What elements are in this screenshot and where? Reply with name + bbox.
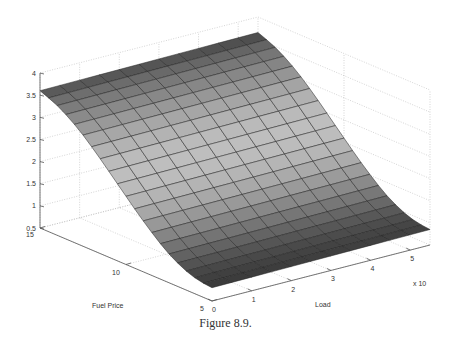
- x-axis-title: Load: [315, 301, 331, 308]
- x-tick-label: 2: [291, 286, 295, 293]
- surface-mesh: [40, 33, 430, 288]
- z-tick: [40, 184, 44, 185]
- z-tick: [40, 139, 44, 140]
- z-tick: [40, 117, 44, 118]
- x-tick-label: 0: [212, 306, 216, 313]
- y-tick: [126, 263, 131, 265]
- z-tick: [40, 206, 44, 207]
- x-axis-multiplier: x 10: [413, 280, 426, 287]
- x-tick: [287, 279, 291, 281]
- x-tick-label: 3: [331, 275, 335, 282]
- x-tick-label: 1: [252, 296, 256, 303]
- x-tick-label: 5: [410, 255, 414, 262]
- z-tick-label: 3.5: [26, 92, 36, 99]
- z-tick-label: 2: [32, 158, 36, 165]
- surface-plot: Load Fuel Price x 10 0.511.522.533.54510…: [0, 0, 451, 343]
- z-tick-label: 1.5: [26, 180, 36, 187]
- x-tick: [367, 258, 371, 260]
- y-tick-label: 5: [200, 305, 204, 312]
- z-tick-label: 2.5: [26, 136, 36, 143]
- z-tick: [40, 95, 44, 96]
- figure-caption: Figure 8.9.: [0, 316, 451, 331]
- y-tick: [40, 227, 45, 229]
- z-tick-label: 1: [32, 202, 36, 209]
- z-tick: [40, 73, 44, 74]
- z-tick-label: 3: [32, 114, 36, 121]
- y-axis-title: Fuel Price: [92, 302, 124, 309]
- x-tick: [248, 289, 252, 291]
- x-tick: [327, 268, 331, 270]
- z-tick-label: 4: [32, 70, 36, 77]
- x-tick: [208, 299, 212, 301]
- z-tick: [40, 162, 44, 163]
- y-tick-label: 15: [26, 231, 34, 238]
- y-tick-label: 10: [112, 269, 120, 276]
- x-tick-label: 4: [371, 265, 375, 272]
- x-tick: [406, 248, 410, 250]
